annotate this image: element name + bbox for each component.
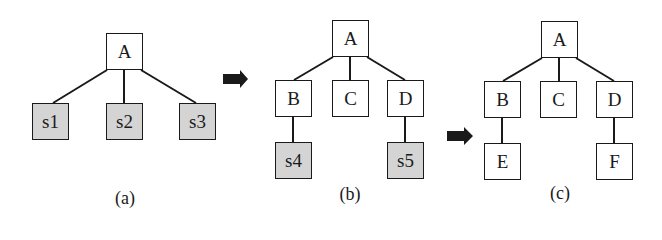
node-s2: s2 bbox=[106, 103, 143, 140]
node-b: B bbox=[275, 80, 312, 117]
edge-a-b bbox=[294, 57, 333, 80]
node-d: D bbox=[596, 81, 633, 118]
node-f: F bbox=[596, 143, 633, 180]
caption-a: (a) bbox=[115, 188, 135, 209]
node-a: A bbox=[106, 33, 143, 70]
node-s3: s3 bbox=[179, 103, 216, 140]
node-s1: s1 bbox=[32, 103, 69, 140]
node-s4: s4 bbox=[275, 142, 312, 179]
edge-a-d bbox=[367, 57, 405, 80]
edge-a-s3 bbox=[141, 70, 196, 103]
caption-b: (b) bbox=[340, 184, 361, 205]
edge-a-b bbox=[503, 58, 542, 81]
caption-c: (c) bbox=[550, 183, 570, 204]
node-c: C bbox=[540, 81, 577, 118]
node-a: A bbox=[541, 21, 578, 58]
node-e: E bbox=[484, 143, 521, 180]
node-s5: s5 bbox=[387, 142, 424, 179]
node-d: D bbox=[387, 80, 424, 117]
edge-a-s1 bbox=[53, 70, 107, 103]
node-a: A bbox=[332, 20, 369, 57]
arrow-right-icon bbox=[447, 127, 473, 145]
edge-a-d bbox=[576, 58, 614, 81]
arrow-right-icon bbox=[223, 70, 248, 88]
node-c: C bbox=[332, 80, 369, 117]
node-b: B bbox=[484, 81, 521, 118]
